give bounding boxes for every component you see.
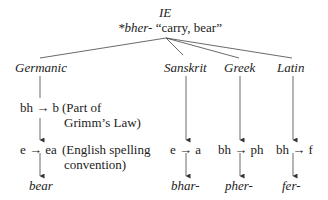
- greek-result: pher-: [225, 179, 253, 193]
- latin-step-change: bh → f: [276, 143, 313, 157]
- branch-germanic: Germanic: [15, 61, 67, 75]
- branch-greek: Greek: [224, 61, 255, 75]
- root-form: *bher-: [118, 20, 152, 35]
- germanic-step1-note1: (Part of: [62, 101, 101, 115]
- germanic-step2-note2: convention): [64, 158, 126, 172]
- sanskrit-result: bhar-: [171, 179, 200, 193]
- root-label: IE: [159, 6, 171, 20]
- germanic-result: bear: [29, 179, 53, 193]
- germanic-step1-change: bh → b: [20, 101, 59, 115]
- branch-latin: Latin: [277, 61, 304, 75]
- latin-result: fer-: [282, 179, 301, 193]
- greek-step-change: bh → ph: [218, 143, 264, 157]
- sanskrit-step-change: e → a: [170, 143, 201, 157]
- root-gloss: “carry, bear”: [156, 20, 222, 35]
- branch-sanskrit: Sanskrit: [164, 61, 207, 75]
- germanic-step2-note1: (English spelling: [62, 143, 150, 157]
- germanic-step2-change: e → ea: [20, 143, 57, 157]
- germanic-step1-note2: Grimm’s Law): [64, 116, 141, 130]
- root-form-gloss: *bher- “carry, bear”: [118, 21, 222, 35]
